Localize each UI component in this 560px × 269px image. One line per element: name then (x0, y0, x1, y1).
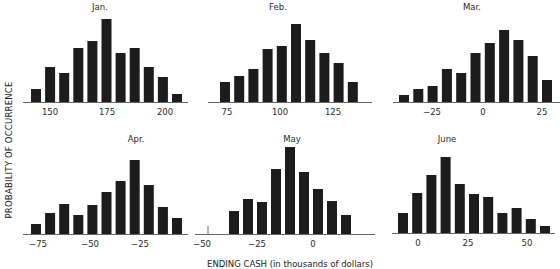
histogram-bar (285, 147, 295, 234)
histogram-bar (248, 69, 258, 102)
histogram-bar (483, 197, 493, 233)
histogram-bar (130, 160, 140, 234)
histogram-panels: Jan.150175200Feb.75100125Mar.−25025Apr.−… (0, 0, 560, 269)
histogram-bar (542, 80, 552, 102)
panel-mar: Mar.−25025 (393, 2, 560, 117)
histogram-bar (158, 207, 168, 234)
histogram-bar (426, 175, 436, 233)
histogram-bar (59, 73, 69, 102)
histogram-bar (31, 89, 41, 102)
histogram-bar (348, 82, 358, 102)
panel-apr: Apr.−75−50−25 (23, 134, 188, 249)
histogram-bar (172, 218, 182, 234)
panel-june: June02550 (392, 134, 555, 248)
histogram-bar (172, 94, 182, 102)
histogram-bar (116, 53, 126, 102)
x-tick-label: 175 (99, 107, 115, 117)
histogram-bar (144, 67, 154, 102)
histogram-bar (413, 89, 423, 102)
histogram-bar (291, 24, 301, 102)
histogram-bar (512, 208, 522, 233)
panel-title: Mar. (463, 2, 481, 12)
histogram-bar (398, 213, 408, 233)
histogram-bar (442, 69, 452, 102)
panel-title: Feb. (269, 2, 287, 12)
x-tick-label: 75 (222, 107, 233, 117)
x-tick-label: 100 (272, 107, 288, 117)
histogram-bar (455, 184, 465, 233)
histogram-bar (485, 43, 495, 102)
x-tick-label: −25 (423, 107, 441, 117)
histogram-bar (469, 194, 479, 233)
histogram-bar (87, 41, 97, 102)
panel-jan: Jan.150175200 (23, 2, 188, 117)
histogram-bar (73, 48, 83, 102)
x-tick-label: −25 (131, 239, 149, 249)
histogram-bar (341, 215, 351, 234)
histogram-bar (234, 76, 244, 102)
histogram-bar (471, 53, 481, 102)
histogram-bar (144, 185, 154, 234)
histogram-bar (327, 201, 337, 234)
histogram-bar (497, 213, 507, 233)
panel-title: Jan. (91, 2, 108, 12)
histogram-bar (399, 95, 409, 102)
histogram-bar (116, 181, 126, 234)
x-axis-caption: ENDING CASH (in thousands of dollars) (180, 259, 400, 269)
histogram-figure: Jan.150175200Feb.75100125Mar.−25025Apr.−… (0, 0, 560, 269)
histogram-bar (243, 199, 253, 234)
histogram-bar (45, 213, 55, 234)
y-axis-label-text: PROBABILITY OF OCCURRENCE (4, 82, 14, 219)
panel-title: May (283, 134, 301, 144)
histogram-bar (102, 192, 112, 234)
histogram-bar (441, 157, 451, 233)
histogram-bar (499, 30, 509, 102)
histogram-bar (528, 56, 538, 102)
x-tick-label: 0 (480, 107, 485, 117)
histogram-bar (271, 169, 281, 234)
histogram-bar (45, 67, 55, 102)
histogram-bar (73, 215, 83, 234)
histogram-bar (130, 48, 140, 102)
x-tick-label: 0 (310, 239, 315, 249)
panel-title: June (437, 134, 457, 144)
histogram-bar (334, 63, 344, 102)
histogram-bar (526, 219, 536, 233)
histogram-bar (319, 53, 329, 102)
histogram-bar (277, 46, 287, 102)
histogram-bar (229, 211, 239, 234)
x-tick-label: −25 (248, 239, 266, 249)
histogram-bar (59, 204, 69, 234)
histogram-bar (31, 224, 41, 234)
x-tick-label: −50 (81, 239, 99, 249)
x-tick-label: 150 (42, 107, 58, 117)
x-tick-label: 50 (522, 238, 533, 248)
histogram-bar (257, 202, 267, 234)
histogram-bar (513, 40, 523, 102)
histogram-bar (456, 73, 466, 102)
histogram-bar (299, 172, 309, 234)
x-tick-label: 25 (463, 238, 474, 248)
histogram-bar (263, 49, 273, 102)
histogram-bar (102, 19, 112, 102)
x-tick-label: 200 (157, 107, 173, 117)
histogram-bar (428, 86, 438, 102)
y-axis-label: PROBABILITY OF OCCURRENCE (2, 60, 16, 240)
histogram-bar (87, 205, 97, 234)
histogram-bar (305, 40, 315, 102)
x-tick-label: 125 (325, 107, 341, 117)
histogram-bar (313, 189, 323, 234)
histogram-bar (412, 193, 422, 233)
panel-title: Apr. (128, 134, 145, 144)
panel-feb: Feb.75100125 (208, 2, 372, 117)
histogram-bar (158, 77, 168, 102)
x-tick-label: 0 (415, 238, 420, 248)
histogram-bar (220, 82, 230, 102)
x-tick-label: −50 (193, 239, 211, 249)
panel-may: May−50−250 (193, 134, 375, 249)
x-tick-label: 25 (537, 107, 548, 117)
x-tick-label: −75 (29, 239, 47, 249)
histogram-bar (540, 226, 550, 233)
